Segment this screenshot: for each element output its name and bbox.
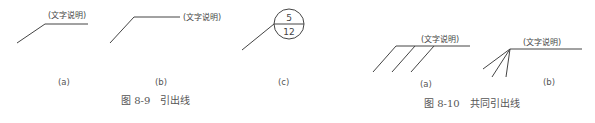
annotation-text: (文字说明)	[421, 34, 459, 44]
leader-line	[506, 49, 510, 77]
fig-8-9-panel-c: 5 12 (c)	[242, 9, 304, 87]
panel-label: (a)	[58, 77, 70, 87]
leader-line	[242, 24, 274, 50]
fig-8-10-panel-b: (文字说明) (b)	[483, 37, 582, 87]
panel-label: (c)	[278, 77, 289, 87]
fig-8-9-panel-b: (文字说明) (b)	[110, 12, 221, 87]
leader-line	[17, 24, 88, 43]
panel-label: (b)	[155, 77, 167, 87]
annotation-text: (文字说明)	[48, 10, 86, 20]
fig-8-9-panel-a: (文字说明) (a)	[17, 10, 88, 87]
panel-label: (a)	[420, 79, 432, 89]
annotation-text: (文字说明)	[183, 12, 221, 22]
fig-8-10-panel-a: (文字说明) (a)	[373, 34, 470, 89]
leader-line	[411, 46, 434, 72]
panel-label: (b)	[543, 77, 555, 87]
figure-caption: 图 8-10 共同引出线	[424, 97, 520, 109]
leader-line	[392, 46, 415, 72]
leader-line	[373, 46, 396, 72]
leader-line	[483, 49, 510, 69]
numerator: 5	[286, 13, 292, 23]
annotation-text: (文字说明)	[523, 37, 561, 47]
figure-caption: 图 8-9 引出线	[121, 94, 190, 106]
leader-line	[110, 17, 180, 43]
leader-line-diagrams: (文字说明) (a) (文字说明) (b) 5 12 (c) 图 8-9 引出线…	[0, 0, 595, 123]
leader-line	[492, 49, 510, 77]
denominator: 12	[283, 27, 294, 37]
